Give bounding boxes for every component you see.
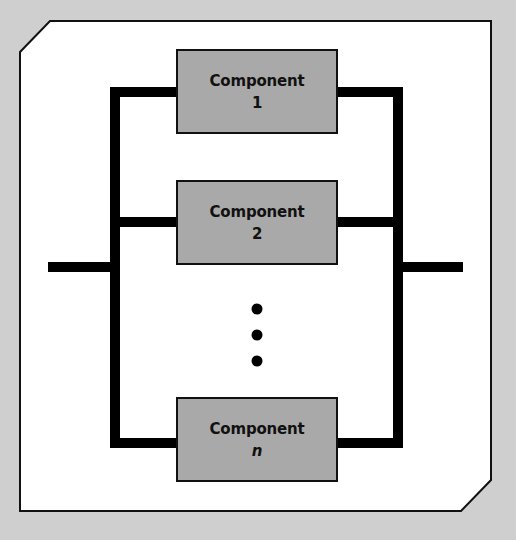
left-bus [110,87,120,448]
right-bus [393,87,403,448]
diagram-canvas: Component 1 Component 2 Component n [0,0,516,540]
component-index: 2 [252,223,262,245]
component-index: 1 [252,92,262,114]
connector-right-n [336,438,403,448]
component-label-n: Component n [177,398,337,481]
component-name: Component [210,418,305,440]
connector-left-2 [110,217,178,227]
component-name: Component [210,201,305,223]
connector-right-1 [336,87,403,97]
component-index: n [252,440,262,462]
ellipsis-dot-icon [252,356,263,367]
output-line [393,262,463,272]
connector-left-n [110,438,178,448]
connector-left-1 [110,87,178,97]
component-label-1: Component 1 [177,50,337,133]
connector-right-2 [336,217,403,227]
component-name: Component [210,70,305,92]
input-line [48,262,120,272]
ellipsis-dot-icon [252,304,263,315]
component-label-2: Component 2 [177,181,337,264]
ellipsis-dot-icon [252,330,263,341]
